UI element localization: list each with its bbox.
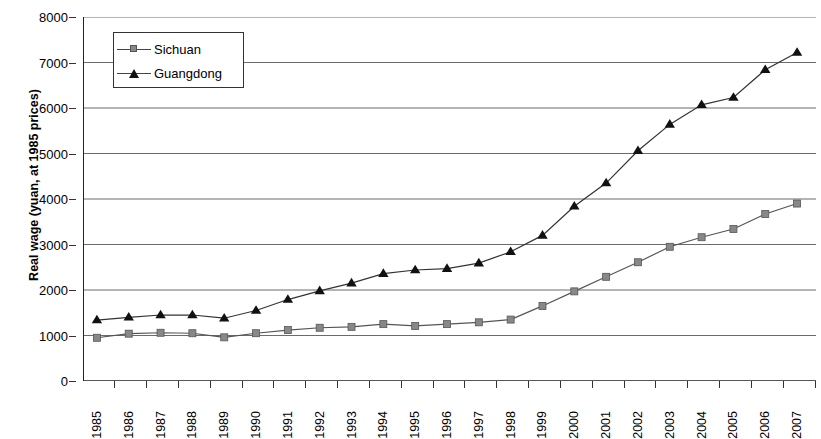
x-axis-tick-mark	[242, 381, 243, 388]
y-axis-tick-mark	[69, 108, 76, 109]
x-axis-tick-mark	[719, 381, 720, 388]
x-axis-tick-mark	[655, 381, 656, 388]
data-point-marker	[125, 330, 132, 337]
y-axis-tick-mark	[69, 245, 76, 246]
x-axis-tick-label: 1985	[91, 411, 104, 439]
x-axis-tick-mark	[815, 381, 816, 388]
x-axis-tick-labels: 1985198619871988198919901991199219931994…	[83, 392, 815, 439]
data-point-marker	[569, 201, 579, 210]
x-axis-tick-mark	[146, 381, 147, 388]
data-point-marker	[253, 330, 260, 337]
y-axis-tick-label: 7000	[39, 56, 68, 69]
y-axis-tick-mark	[69, 63, 76, 64]
x-axis-tick-label: 1998	[505, 411, 518, 439]
legend-key-square-icon	[114, 39, 154, 59]
x-axis-tick-mark	[337, 381, 338, 388]
x-axis-tick-mark	[560, 381, 561, 388]
y-axis-tick-labels: 010002000300040005000600070008000	[14, 0, 76, 400]
x-axis-tick-mark	[305, 381, 306, 388]
y-axis-tick-label: 3000	[39, 238, 68, 251]
x-axis-tick-label: 2001	[600, 411, 613, 439]
data-point-marker	[792, 47, 802, 56]
x-axis-tick-mark	[496, 381, 497, 388]
x-axis-tick-mark	[433, 381, 434, 388]
y-axis-tick-mark	[69, 154, 76, 155]
x-axis-tick-label: 1991	[282, 411, 295, 439]
x-axis-tick-mark	[624, 381, 625, 388]
x-axis-tick-mark	[687, 381, 688, 388]
data-point-marker	[539, 302, 546, 309]
data-point-marker	[505, 246, 515, 255]
x-axis-tick-label: 2000	[568, 411, 581, 439]
y-axis-tick-label: 2000	[39, 284, 68, 297]
x-axis-ticks	[83, 381, 815, 389]
data-point-marker	[93, 334, 100, 341]
x-axis-tick-mark	[273, 381, 274, 388]
data-point-marker	[155, 310, 165, 319]
x-axis-tick-label: 1997	[473, 411, 486, 439]
x-axis-tick-mark	[783, 381, 784, 388]
data-point-marker	[633, 145, 643, 154]
series-line-guangdong	[97, 52, 797, 320]
x-axis-tick-label: 1992	[314, 411, 327, 439]
data-point-marker	[316, 324, 323, 331]
data-point-marker	[730, 226, 737, 233]
data-point-marker	[507, 316, 514, 323]
x-axis-tick-mark	[114, 381, 115, 388]
real-wage-line-chart: Real wage (yuan, at 1985 prices) 0100020…	[0, 0, 821, 439]
x-axis-tick-label: 1989	[218, 411, 231, 439]
x-axis-tick-label: 2007	[791, 411, 804, 439]
data-point-marker	[603, 273, 610, 280]
data-point-marker	[157, 329, 164, 336]
data-point-marker	[284, 327, 291, 334]
data-point-marker	[412, 322, 419, 329]
y-axis-tick-label: 5000	[39, 147, 68, 160]
x-axis-tick-mark	[464, 381, 465, 388]
data-point-marker	[124, 312, 134, 321]
y-axis-tick-mark	[69, 199, 76, 200]
data-point-marker	[634, 259, 641, 266]
x-axis-tick-mark	[210, 381, 211, 388]
data-point-marker	[794, 200, 801, 207]
data-point-marker	[189, 330, 196, 337]
x-axis-tick-mark	[751, 381, 752, 388]
data-point-marker	[760, 64, 770, 73]
data-point-marker	[475, 319, 482, 326]
legend-key-triangle-icon	[114, 63, 154, 83]
x-axis-tick-label: 2002	[632, 411, 645, 439]
y-axis-tick-label: 0	[61, 375, 68, 388]
data-point-marker	[378, 268, 388, 277]
x-axis-tick-label: 2003	[664, 411, 677, 439]
y-axis-tick-mark	[69, 290, 76, 291]
data-point-marker	[410, 265, 420, 274]
x-axis-tick-label: 1988	[186, 411, 199, 439]
x-axis-tick-mark	[369, 381, 370, 388]
x-axis-tick-label: 1999	[536, 411, 549, 439]
x-axis-tick-mark	[592, 381, 593, 388]
y-axis-tick-mark	[69, 381, 76, 382]
x-axis-tick-label: 1990	[250, 411, 263, 439]
data-point-marker	[698, 234, 705, 241]
data-point-marker	[380, 321, 387, 328]
legend-item-sichuan: Sichuan	[114, 37, 245, 61]
data-point-marker	[187, 310, 197, 319]
data-point-marker	[221, 334, 228, 341]
data-point-marker	[444, 321, 451, 328]
data-point-marker	[571, 288, 578, 295]
data-point-marker	[348, 323, 355, 330]
y-axis-tick-label: 8000	[39, 11, 68, 24]
x-axis-tick-label: 1996	[441, 411, 454, 439]
data-point-marker	[762, 211, 769, 218]
x-axis-tick-label: 1994	[377, 411, 390, 439]
legend-label-guangdong: Guangdong	[154, 67, 222, 80]
y-axis-tick-label: 4000	[39, 193, 68, 206]
chart-legend: Sichuan Guangdong	[113, 32, 244, 88]
legend-item-guangdong: Guangdong	[114, 61, 245, 85]
y-axis-tick-label: 6000	[39, 102, 68, 115]
x-axis-tick-mark	[401, 381, 402, 388]
y-axis-tick-mark	[69, 336, 76, 337]
x-axis-tick-label: 2005	[727, 411, 740, 439]
data-point-marker	[666, 243, 673, 250]
y-axis-tick-label: 1000	[39, 329, 68, 342]
data-point-marker	[665, 119, 675, 128]
